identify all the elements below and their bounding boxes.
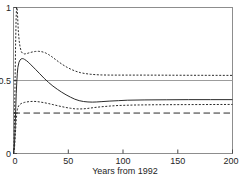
x-tick-label-200: 200 <box>223 156 238 166</box>
figure-background <box>0 0 242 178</box>
y-tick-label-0: 0 <box>6 149 11 159</box>
x-tick-label-150: 150 <box>170 156 185 166</box>
chart-figure: 1 0.5 0 0 50 100 150 200 Years from 1992 <box>0 0 242 178</box>
x-tick-label-0: 0 <box>12 156 17 166</box>
y-tick-label-1: 1 <box>6 3 11 13</box>
x-tick-label-50: 50 <box>63 156 73 166</box>
y-tick-label-0point5: 0.5 <box>0 76 11 86</box>
x-axis-title: Years from 1992 <box>92 166 158 176</box>
x-tick-label-100: 100 <box>115 156 130 166</box>
